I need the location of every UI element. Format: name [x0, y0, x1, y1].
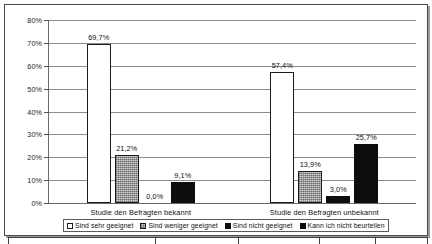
bar-group: 69,7%21,2%0,0%9,1%Studie den Befragten b… — [49, 20, 233, 203]
bar[interactable] — [87, 44, 111, 203]
legend-label: Sind sehr geeignet — [75, 222, 133, 229]
plot-wrapper: 0%10%20%30%40%50%60%70%80%69,7%21,2%0,0%… — [10, 9, 422, 211]
legend-item[interactable]: Sind sehr geeignet — [67, 222, 133, 229]
bar[interactable] — [171, 182, 195, 203]
legend-swatch-icon — [140, 223, 146, 229]
legend-label: Kann ich nicht beurteilen — [308, 222, 385, 229]
bar[interactable] — [270, 72, 294, 203]
bar-value-label: 0,0% — [146, 192, 163, 201]
legend-swatch-icon — [225, 223, 231, 229]
y-axis-label: 0% — [31, 199, 42, 208]
bar-value-label: 13,9% — [300, 160, 321, 169]
legend-item[interactable]: Sind weniger geeignet — [140, 222, 217, 229]
bar[interactable] — [354, 144, 378, 203]
legend-swatch-icon — [67, 223, 73, 229]
y-axis-label: 40% — [27, 107, 42, 116]
legend-item[interactable]: Kann ich nicht beurteilen — [300, 222, 385, 229]
y-axis-label: 60% — [27, 61, 42, 70]
y-axis-label: 10% — [27, 176, 42, 185]
bar-group: 57,4%13,9%3,0%25,7%Studie den Befragten … — [233, 20, 417, 203]
bar[interactable] — [115, 155, 139, 203]
table-divider — [155, 238, 156, 244]
plot-area: 0%10%20%30%40%50%60%70%80%69,7%21,2%0,0%… — [48, 20, 416, 204]
bar-value-label: 3,0% — [330, 185, 347, 194]
y-axis-tick — [44, 203, 49, 204]
table-divider — [375, 238, 376, 244]
legend-item[interactable]: Sind nicht geeignet — [225, 222, 293, 229]
bar-value-label: 69,7% — [88, 33, 109, 42]
x-axis-category-label: Studie den Befragten bekannt — [90, 208, 191, 217]
table-divider — [238, 238, 239, 244]
bar-value-label: 9,1% — [174, 171, 191, 180]
bar[interactable] — [298, 171, 322, 203]
document-table-strip — [8, 237, 428, 244]
x-axis-category-label: Studie den Befragten unbekannt — [270, 208, 379, 217]
bar-value-label: 21,2% — [116, 144, 137, 153]
y-axis-label: 30% — [27, 130, 42, 139]
y-axis-label: 70% — [27, 38, 42, 47]
legend-swatch-icon — [300, 223, 306, 229]
table-divider — [319, 238, 320, 244]
chart-screenshot: 0%10%20%30%40%50%60%70%80%69,7%21,2%0,0%… — [0, 0, 432, 244]
y-axis-label: 50% — [27, 84, 42, 93]
chart-legend: Sind sehr geeignetSind weniger geeignetS… — [63, 219, 389, 232]
bar-value-label: 57,4% — [272, 61, 293, 70]
y-axis-label: 20% — [27, 153, 42, 162]
bar[interactable] — [326, 196, 350, 203]
bar-value-label: 25,7% — [356, 133, 377, 142]
y-axis-label: 80% — [27, 16, 42, 25]
legend-label: Sind weniger geeignet — [148, 222, 217, 229]
legend-label: Sind nicht geeignet — [233, 222, 293, 229]
